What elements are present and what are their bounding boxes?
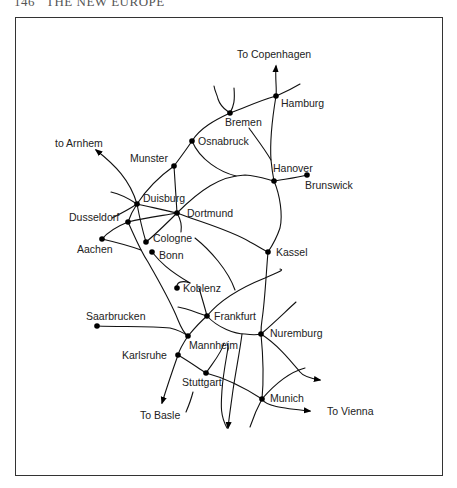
- label-to-arnhem: to Arnhem: [55, 137, 103, 149]
- city-dot-bonn: [149, 249, 155, 255]
- line-duisburg-cologne: [137, 204, 146, 242]
- line-munich-south: [250, 399, 262, 427]
- line-duisburg-dortmund: [137, 204, 177, 213]
- label-osnabruck: Osnabruck: [198, 135, 250, 147]
- line-south-mid: [221, 348, 228, 428]
- line-bremen-hamburg: [230, 96, 276, 113]
- label-aachen: Aachen: [77, 243, 113, 255]
- line-nuremburg-munich: [261, 334, 263, 399]
- city-dot-munich: [259, 396, 265, 402]
- line-to-copenhagen: [276, 66, 277, 96]
- city-dot-munster: [171, 163, 177, 169]
- label-to-basle: To Basle: [140, 409, 180, 421]
- line-nuremburg-se: [261, 334, 320, 380]
- line-munster-dortmund: [174, 166, 177, 213]
- railway-map: To Copenhagen Hamburg Bremen Osnabruck t…: [0, 0, 457, 488]
- city-dot-kassel: [265, 249, 271, 255]
- city-dot-nuremburg: [258, 331, 264, 337]
- label-munich: Munich: [270, 392, 304, 404]
- city-dot-duisburg: [134, 201, 140, 207]
- city-dot-karlsruhe: [175, 352, 181, 358]
- line-hanover-kassel: [268, 181, 281, 252]
- line-bremen-hanover: [249, 128, 271, 160]
- line-stuttgart-south: [186, 392, 193, 412]
- label-stuttgart: Stuttgart: [182, 376, 222, 388]
- label-munster: Munster: [130, 152, 168, 164]
- label-bonn: Bonn: [159, 249, 184, 261]
- city-dot-hamburg: [273, 93, 279, 99]
- city-dot-cologne: [143, 239, 149, 245]
- label-saarbrucken: Saarbrucken: [86, 310, 146, 322]
- city-dot-dortmund: [174, 210, 180, 216]
- city-dot-aachen: [99, 236, 105, 242]
- label-nuremburg: Nuremburg: [270, 327, 323, 339]
- label-hanover: Hanover: [273, 162, 313, 174]
- city-dot-saarbrucken: [94, 323, 100, 329]
- line-frankfurt-west: [178, 307, 207, 316]
- label-koblenz: Koblenz: [183, 282, 221, 294]
- label-karlsruhe: Karlsruhe: [122, 349, 167, 361]
- line-hanover-brunswick: [274, 175, 307, 181]
- line-to-basle: [162, 355, 178, 403]
- label-dortmund: Dortmund: [187, 207, 233, 219]
- label-hamburg: Hamburg: [281, 97, 324, 109]
- line-osnabruck-munster: [174, 141, 192, 166]
- city-dot-dusseldorf: [125, 219, 131, 225]
- map-labels: To Copenhagen Hamburg Bremen Osnabruck t…: [55, 48, 374, 421]
- line-mannheim-karlsruhe: [178, 336, 188, 355]
- line-kassel-nuremburg: [261, 252, 268, 334]
- label-brunswick: Brunswick: [305, 179, 354, 191]
- city-dot-hanover: [271, 178, 277, 184]
- line-karlsruhe-stuttgart: [178, 355, 206, 373]
- label-duisburg: Duisburg: [143, 192, 185, 204]
- line-dusseldorf-aachen: [102, 222, 128, 239]
- label-to-vienna: To Vienna: [327, 405, 374, 417]
- label-bremen: Bremen: [225, 116, 262, 128]
- city-dot-bremen: [227, 110, 233, 116]
- label-kassel: Kassel: [276, 246, 308, 258]
- city-dot-osnabruck: [189, 138, 195, 144]
- city-dot-stuttgart: [203, 370, 209, 376]
- label-to-copenhagen: To Copenhagen: [237, 48, 311, 60]
- line-saarbrucken-mannheim: [97, 326, 188, 336]
- city-dot-mannheim: [185, 333, 191, 339]
- label-cologne: Cologne: [153, 232, 192, 244]
- label-mannheim: Mannheim: [189, 339, 238, 351]
- label-frankfurt: Frankfurt: [214, 310, 256, 322]
- line-bremen-spur1: [214, 86, 230, 113]
- line-frankfurt-mannheim: [188, 316, 207, 336]
- line-hamburg-east: [276, 84, 300, 96]
- city-dot-frankfurt: [204, 313, 210, 319]
- label-dusseldorf: Dusseldorf: [69, 211, 119, 223]
- line-bremen-spur2: [230, 88, 234, 113]
- city-dot-koblenz: [174, 285, 180, 291]
- line-dortmund-south: [177, 213, 181, 232]
